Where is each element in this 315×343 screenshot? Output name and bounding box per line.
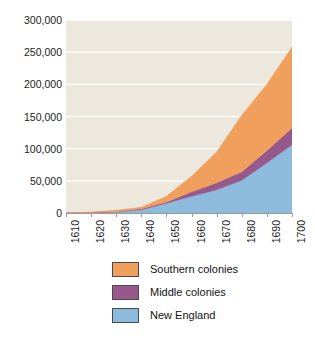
x-tick-mark	[292, 213, 293, 217]
x-tick-label: 1630	[120, 220, 131, 243]
legend-item[interactable]: Middle colonies	[112, 284, 238, 300]
x-tick-label: 1700	[296, 220, 307, 243]
x-tick-mark	[66, 213, 67, 217]
y-tick-label: 50,000	[0, 176, 62, 187]
x-tick-mark	[217, 213, 218, 217]
plot-area	[66, 20, 292, 213]
x-axis-line	[66, 213, 292, 214]
chart-legend: Southern coloniesMiddle coloniesNew Engl…	[112, 261, 238, 323]
x-tick-label: 1670	[221, 220, 232, 243]
x-tick-label: 1640	[145, 220, 156, 243]
legend-item[interactable]: Southern colonies	[112, 261, 238, 277]
x-tick-label: 1660	[196, 220, 207, 243]
legend-label: Southern colonies	[150, 264, 238, 275]
x-tick-mark	[141, 213, 142, 217]
y-tick-label: 250,000	[0, 47, 62, 58]
x-tick-label: 1680	[246, 220, 257, 243]
legend-swatch	[112, 262, 139, 277]
y-tick-label: 200,000	[0, 79, 62, 90]
x-tick-label: 1620	[95, 220, 106, 243]
x-tick-mark	[166, 213, 167, 217]
y-tick-label: 0	[0, 208, 62, 219]
x-tick-mark	[91, 213, 92, 217]
x-tick-mark	[267, 213, 268, 217]
x-tick-label: 1610	[70, 220, 81, 243]
legend-label: Middle colonies	[150, 287, 226, 298]
population-growth-area-chart: 050,000100,000150,000200,000250,000300,0…	[0, 0, 315, 343]
y-axis: 050,000100,000150,000200,000250,000300,0…	[0, 0, 62, 233]
x-tick-mark	[116, 213, 117, 217]
y-tick-label: 100,000	[0, 143, 62, 154]
legend-label: New England	[150, 310, 215, 321]
x-tick-label: 1650	[170, 220, 181, 243]
x-tick-label: 1690	[271, 220, 282, 243]
y-tick-label: 300,000	[0, 15, 62, 26]
legend-swatch	[112, 285, 139, 300]
legend-swatch	[112, 308, 139, 323]
legend-item[interactable]: New England	[112, 307, 238, 323]
stacked-area-series	[66, 20, 292, 213]
y-tick-label: 150,000	[0, 111, 62, 122]
x-tick-mark	[192, 213, 193, 217]
x-tick-mark	[242, 213, 243, 217]
